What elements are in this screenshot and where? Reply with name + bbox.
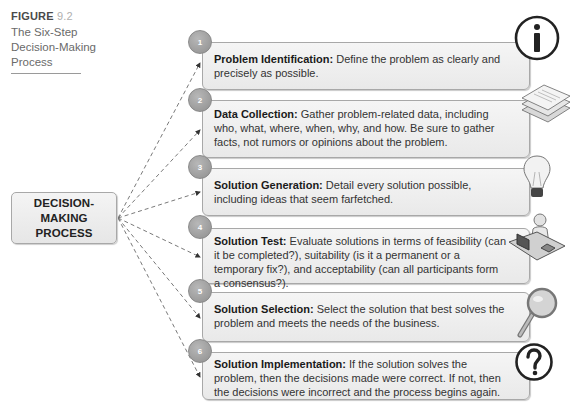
decision-making-process-node: DECISION-MAKING PROCESS (11, 192, 117, 244)
step-1-box: Problem Identification: Define the probl… (202, 42, 530, 90)
center-line-2: PROCESS (12, 226, 116, 241)
step-title: Solution Implementation: (214, 358, 346, 370)
question-mark-icon (514, 342, 554, 386)
magnifying-glass-icon (516, 287, 558, 343)
step-title: Solution Selection: (214, 303, 314, 315)
person-at-desk-icon (507, 210, 567, 272)
step-5-box: Solution Selection: Select the solution … (202, 292, 530, 342)
step-4-box: Solution Test: Evaluate solutions in ter… (202, 228, 530, 284)
lightbulb-icon (522, 154, 552, 206)
info-icon (513, 14, 561, 66)
step-2-box: Data Collection: Gather problem-related … (202, 100, 530, 158)
stacked-papers-icon (520, 82, 572, 132)
step-title: Data Collection: (214, 108, 298, 120)
figure-number: 9.2 (57, 10, 73, 22)
figure-caption: The Six-Step Decision-Making Process (11, 25, 121, 70)
step-number-badge: 6 (188, 339, 212, 363)
figure-label: FIGURE 9.2 (11, 10, 73, 22)
caption-divider (11, 73, 81, 74)
step-number-badge: 2 (188, 88, 212, 112)
step-3-box: Solution Generation: Detail every soluti… (202, 168, 530, 216)
step-title: Problem Identification: (214, 53, 333, 65)
step-title: Solution Test: (214, 235, 287, 247)
step-number-badge: 3 (188, 155, 212, 179)
step-number-badge: 1 (188, 30, 212, 54)
step-title: Solution Generation: (214, 179, 323, 191)
step-6-box: Solution Implementation: If the solution… (202, 352, 530, 400)
step-number-badge: 5 (188, 279, 212, 303)
figure-label-word: FIGURE (11, 10, 54, 22)
center-line-1: DECISION-MAKING (12, 196, 116, 226)
step-number-badge: 4 (188, 215, 212, 239)
